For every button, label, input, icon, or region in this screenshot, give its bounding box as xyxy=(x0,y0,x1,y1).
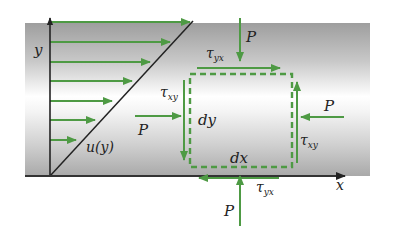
couette-flow-diagram: y x u(y) dy dx P τyx τxy P τxy P τyx P xyxy=(0,0,397,241)
left-pressure-label: P xyxy=(137,121,149,139)
top-pressure-label: P xyxy=(245,28,257,46)
bottom-pressure-label: P xyxy=(223,202,235,220)
right-pressure-label: P xyxy=(323,97,335,115)
y-axis-label: y xyxy=(33,41,43,59)
fluid-band xyxy=(25,23,370,176)
bottom-shear-label: τyx xyxy=(256,179,274,197)
dy-label: dy xyxy=(198,111,217,129)
dx-label: dx xyxy=(230,149,249,167)
x-axis-label: x xyxy=(336,177,344,193)
profile-label: u(y) xyxy=(86,139,114,155)
